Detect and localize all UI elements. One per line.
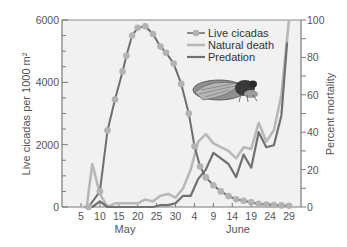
data-point: [104, 127, 111, 134]
data-point: [248, 199, 255, 206]
data-point: [197, 163, 204, 170]
data-point: [225, 193, 232, 200]
right-tick-label: 0: [307, 201, 313, 213]
data-point: [263, 201, 270, 208]
data-point: [178, 81, 185, 88]
data-point: [157, 43, 164, 50]
x-tick-label: 15: [113, 210, 125, 222]
data-point: [218, 188, 225, 195]
x-tick-label: 30: [170, 210, 182, 222]
data-point: [150, 31, 157, 38]
left-tick-label: 4000: [36, 76, 60, 88]
x-tick-label: 20: [132, 210, 144, 222]
x-tick-label: 25: [151, 210, 163, 222]
data-point: [134, 25, 141, 32]
data-point: [286, 203, 293, 210]
right-axis-title: Percent mortality: [324, 72, 336, 155]
data-point: [255, 201, 262, 208]
data-point: [119, 68, 126, 75]
x-tick-label: 5: [78, 210, 84, 222]
data-point: [85, 204, 92, 211]
data-point: [112, 96, 119, 103]
data-point: [191, 143, 198, 150]
right-tick-label: 20: [307, 164, 319, 176]
data-point: [186, 110, 193, 117]
svg-text:Live cicadas: Live cicadas: [208, 27, 269, 39]
x-group-label-june: June: [226, 223, 250, 235]
data-point: [129, 32, 136, 39]
svg-text:Predation: Predation: [208, 51, 255, 63]
right-axis-ticks: 020406080100: [301, 14, 325, 213]
right-tick-label: 60: [307, 89, 319, 101]
right-tick-label: 40: [307, 126, 319, 138]
data-point: [123, 53, 130, 60]
x-tick-label: 24: [264, 210, 276, 222]
data-point: [278, 202, 285, 209]
x-group-label-may: May: [115, 223, 136, 235]
data-point: [142, 23, 149, 30]
data-point: [203, 174, 210, 181]
data-point: [271, 202, 278, 209]
chart: 0200040006000 020406080100 5101520253049…: [0, 0, 347, 247]
svg-text:Natural death: Natural death: [208, 39, 274, 51]
x-tick-label: 9: [210, 210, 216, 222]
data-point: [163, 49, 170, 56]
data-point: [233, 196, 240, 203]
left-tick-label: 6000: [36, 14, 60, 26]
data-point: [170, 60, 177, 67]
left-axis-title: Live cicadas per 1000 m²: [20, 52, 32, 175]
x-tick-label: 29: [283, 210, 295, 222]
left-tick-label: 2000: [36, 139, 60, 151]
x-tick-label: 19: [245, 210, 257, 222]
data-point: [210, 182, 217, 189]
right-tick-label: 100: [307, 14, 325, 26]
x-tick-label: 14: [226, 210, 238, 222]
x-tick-label: 10: [94, 210, 106, 222]
data-point: [240, 198, 247, 205]
right-tick-label: 80: [307, 51, 319, 63]
data-point: [97, 188, 104, 195]
x-tick-label: 4: [192, 210, 198, 222]
left-tick-label: 0: [53, 201, 59, 213]
